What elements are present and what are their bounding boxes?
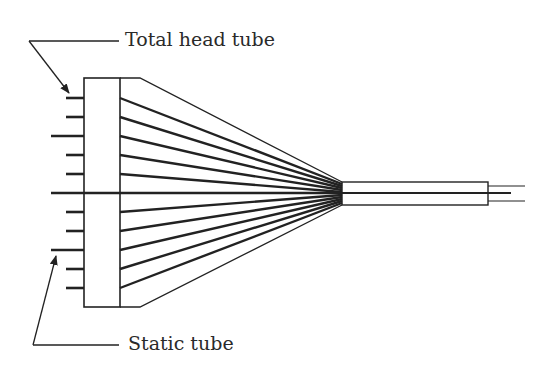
fan-tube-line bbox=[120, 201, 342, 269]
fan-tubes bbox=[120, 98, 342, 288]
pitot-rake-diagram bbox=[0, 0, 551, 379]
fan-tube-line bbox=[120, 203, 342, 288]
total-head-arrow bbox=[29, 41, 69, 93]
fan-tube-line bbox=[120, 195, 342, 212]
static-arrow bbox=[33, 256, 56, 345]
outlet-tube bbox=[342, 182, 525, 205]
manifold-taper-top bbox=[120, 78, 342, 182]
static-tube-label: Static tube bbox=[128, 334, 234, 353]
fan-tube-line bbox=[120, 136, 342, 188]
fan-tube-line bbox=[120, 197, 342, 231]
fan-tube-line bbox=[120, 98, 342, 184]
inlet-stubs bbox=[51, 98, 120, 288]
fan-tube-line bbox=[120, 199, 342, 250]
fan-tube-line bbox=[120, 155, 342, 190]
manifold-taper-bottom bbox=[120, 205, 342, 307]
total-head-leader bbox=[29, 41, 119, 93]
total-head-tube-label: Total head tube bbox=[125, 30, 275, 49]
